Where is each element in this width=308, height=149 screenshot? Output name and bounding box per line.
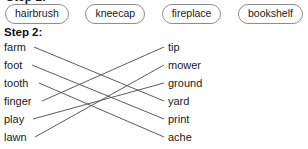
connection-line-farm-yard bbox=[34, 47, 164, 101]
right-word-1[interactable]: mower bbox=[168, 59, 201, 71]
left-word-4[interactable]: play bbox=[4, 113, 24, 125]
right-word-3[interactable]: yard bbox=[168, 95, 189, 107]
connection-line-tooth-ache bbox=[39, 83, 164, 137]
word-bank: hairbrush kneecap fireplace bookshelf bbox=[0, 4, 308, 23]
clipped-heading: Step 1: bbox=[6, 0, 46, 3]
right-word-2[interactable]: ground bbox=[168, 77, 202, 89]
right-word-4[interactable]: print bbox=[168, 113, 189, 125]
right-word-5[interactable]: ache bbox=[168, 131, 192, 143]
word-pill-1[interactable]: kneecap bbox=[85, 4, 145, 24]
left-word-1[interactable]: foot bbox=[4, 59, 22, 71]
word-pill-2[interactable]: fireplace bbox=[162, 4, 222, 24]
connection-line-finger-tip bbox=[42, 47, 164, 101]
word-pill-0[interactable]: hairbrush bbox=[5, 4, 69, 24]
left-word-2[interactable]: tooth bbox=[4, 77, 28, 89]
word-pill-3[interactable]: bookshelf bbox=[238, 4, 303, 24]
connection-line-play-ground bbox=[33, 83, 164, 119]
connection-line-foot-print bbox=[32, 65, 164, 119]
left-word-3[interactable]: finger bbox=[4, 95, 32, 107]
worksheet-screen: Step 1: hairbrush kneecap fireplace book… bbox=[0, 0, 308, 149]
connection-line-lawn-mower bbox=[35, 65, 164, 137]
matching-exercise: farm foot tooth finger play lawn tip mow… bbox=[0, 41, 308, 149]
left-word-0[interactable]: farm bbox=[4, 41, 26, 53]
right-word-0[interactable]: tip bbox=[168, 41, 180, 53]
left-word-5[interactable]: lawn bbox=[4, 131, 27, 143]
step-label: Step 2: bbox=[4, 26, 42, 39]
connection-lines bbox=[0, 41, 308, 149]
